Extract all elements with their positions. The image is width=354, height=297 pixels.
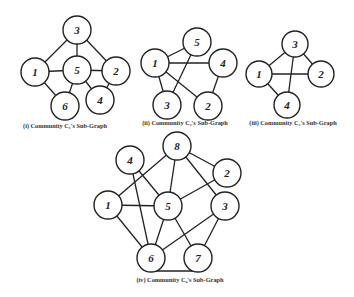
node-3: 3 [153, 91, 181, 119]
node-2: 2 [102, 57, 130, 85]
subgraph-c1: 315264(i) Community C₁'s Sub-Graph [21, 16, 130, 130]
node-label: 1 [152, 57, 158, 69]
node-6: 6 [51, 92, 79, 120]
node-label: 4 [126, 154, 133, 166]
node-2: 2 [194, 92, 222, 120]
node-6: 6 [137, 244, 165, 272]
node-label: 3 [291, 38, 298, 50]
node-label: 8 [174, 140, 180, 152]
node-label: 1 [32, 66, 38, 78]
caption-c4: (iv) Community C₄'s Sub-Graph [136, 276, 224, 284]
node-1: 1 [94, 191, 122, 219]
node-4: 4 [116, 146, 144, 174]
node-4: 4 [274, 92, 300, 118]
node-1: 1 [246, 61, 272, 87]
node-3: 3 [282, 31, 308, 57]
node-label: 1 [256, 68, 262, 80]
node-8: 8 [163, 132, 191, 160]
node-5: 5 [154, 192, 182, 220]
node-label: 3 [73, 24, 80, 36]
node-label: 4 [283, 99, 290, 111]
node-1: 1 [21, 58, 49, 86]
node-5: 5 [183, 28, 211, 56]
node-4: 4 [209, 49, 237, 77]
node-2: 2 [213, 159, 241, 187]
node-label: 5 [74, 64, 80, 76]
node-label: 3 [221, 200, 228, 212]
node-label: 6 [148, 252, 154, 264]
edge-4-6 [130, 160, 151, 258]
node-label: 2 [112, 65, 119, 77]
node-label: 5 [194, 36, 200, 48]
node-label: 3 [163, 99, 170, 111]
node-7: 7 [184, 244, 212, 272]
node-label: 4 [219, 57, 226, 69]
node-label: 6 [62, 100, 68, 112]
subgraph-c2: 51432(ii) Community C₂'s Sub-Graph [141, 28, 237, 127]
node-label: 2 [223, 167, 230, 179]
node-label: 2 [317, 68, 324, 80]
caption-c1: (i) Community C₁'s Sub-Graph [23, 122, 107, 130]
node-5: 5 [63, 56, 91, 84]
node-4: 4 [86, 86, 114, 114]
node-2: 2 [308, 61, 334, 87]
figure-canvas: 315264(i) Community C₁'s Sub-Graph51432(… [0, 0, 354, 297]
node-label: 2 [204, 100, 211, 112]
subgraph-c4: 84215367(iv) Community C₄'s Sub-Graph [94, 132, 241, 284]
node-label: 4 [96, 94, 103, 106]
node-1: 1 [141, 49, 169, 77]
caption-c2: (ii) Community C₂'s Sub-Graph [142, 119, 228, 127]
node-3: 3 [63, 16, 91, 44]
node-label: 1 [105, 199, 111, 211]
subgraph-c3: 3124(iii) Community C₃'s Sub-Graph [246, 31, 337, 127]
caption-c3: (iii) Community C₃'s Sub-Graph [249, 119, 337, 127]
node-3: 3 [211, 192, 239, 220]
community-subgraphs-figure: 315264(i) Community C₁'s Sub-Graph51432(… [0, 0, 354, 297]
node-label: 5 [165, 200, 171, 212]
node-label: 7 [195, 252, 201, 264]
